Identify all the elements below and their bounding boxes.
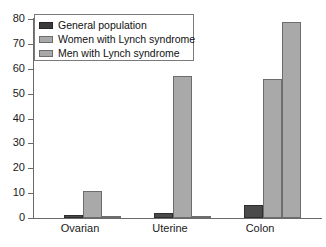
legend-swatch-icon: [39, 36, 53, 43]
x-axis-label-colon: Colon: [222, 222, 298, 235]
legend-swatch-icon: [39, 22, 53, 29]
bar-colon-men-with-lynch-syndrome: [282, 22, 301, 219]
y-axis-label-80: 80: [0, 13, 25, 24]
y-axis-label-20: 20: [0, 162, 25, 173]
x-axis-label-uterine: Uterine: [132, 222, 208, 235]
bar-ovarian-women-with-lynch-syndrome: [83, 191, 102, 218]
x-axis-label-ovarian: Ovarian: [42, 222, 118, 235]
chart-legend: General population Women with Lynch synd…: [34, 14, 194, 61]
bar-ovarian-men-with-lynch-syndrome: [102, 216, 121, 218]
y-tick-mark: [28, 143, 33, 144]
y-tick-mark: [28, 168, 33, 169]
y-axis-label-60: 60: [0, 63, 25, 74]
legend-swatch-icon: [39, 50, 53, 57]
x-axis-line: [33, 218, 322, 219]
bar-colon-general-population: [244, 205, 263, 218]
y-tick-mark: [28, 218, 33, 219]
y-tick-mark: [28, 94, 33, 95]
y-axis-label-50: 50: [0, 88, 25, 99]
y-tick-mark: [28, 44, 33, 45]
y-tick-mark: [28, 69, 33, 70]
bar-uterine-general-population: [154, 213, 173, 219]
bar-ovarian-general-population: [64, 215, 83, 219]
legend-label: General population: [58, 19, 147, 31]
bar-uterine-men-with-lynch-syndrome: [192, 216, 211, 218]
legend-item-women-with-lynch-syndrome: Women with Lynch syndrome: [39, 32, 189, 46]
y-tick-mark: [28, 193, 33, 194]
y-axis-label-30: 30: [0, 137, 25, 148]
y-axis-label-70: 70: [0, 38, 25, 49]
y-tick-mark: [28, 119, 33, 120]
legend-item-men-with-lynch-syndrome: Men with Lynch syndrome: [39, 46, 189, 60]
y-axis-label-10: 10: [0, 187, 25, 198]
legend-label: Women with Lynch syndrome: [58, 33, 195, 45]
legend-label: Men with Lynch syndrome: [58, 47, 180, 59]
bar-uterine-women-with-lynch-syndrome: [173, 76, 192, 218]
legend-item-general-population: General population: [39, 18, 189, 32]
y-axis-label-0: 0: [0, 212, 25, 223]
bar-chart: 80 70 60 50 40 30 20 10 0 Ovarian Uterin…: [0, 0, 326, 247]
bar-colon-women-with-lynch-syndrome: [263, 79, 282, 218]
y-axis-label-40: 40: [0, 113, 25, 124]
y-tick-mark: [28, 19, 33, 20]
